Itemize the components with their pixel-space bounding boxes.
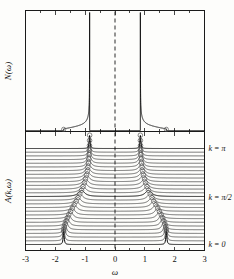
k-label-k-pi: k = π xyxy=(209,144,227,153)
spectral-function-figure: -3-2-10123ωN(ω)A(k,ω)k = πk = π/2k = 0 xyxy=(0,0,234,279)
y-axis-label-dos: N(ω) xyxy=(3,62,13,81)
x-tick-label: -2 xyxy=(52,254,59,264)
x-axis-label: ω xyxy=(112,267,118,277)
x-tick-label: 2 xyxy=(173,254,177,264)
k-label-k-zero: k = 0 xyxy=(209,240,226,249)
k-labels: k = πk = π/2k = 0 xyxy=(209,144,232,249)
x-tick-label: -3 xyxy=(22,254,29,264)
dos-panel xyxy=(26,13,205,132)
k-label-k-pi-half: k = π/2 xyxy=(209,193,232,202)
x-tick-label: 3 xyxy=(202,254,206,264)
plot-canvas: -3-2-10123ωN(ω)A(k,ω)k = πk = π/2k = 0 xyxy=(0,0,234,279)
x-tick-labels: -3-2-10123 xyxy=(22,254,207,264)
x-tick-label: 0 xyxy=(113,254,117,264)
y-axis-label-spectral: A(k,ω) xyxy=(3,179,13,204)
x-tick-label: -1 xyxy=(82,254,89,264)
x-tick-label: 1 xyxy=(143,254,147,264)
